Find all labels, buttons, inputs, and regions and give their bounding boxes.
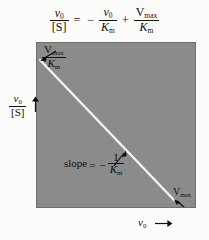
y-axis-numerator-sub: 0 bbox=[18, 98, 21, 105]
slope-label-equals: = bbox=[87, 159, 97, 171]
slope-label: slope=− 1 Km bbox=[64, 152, 124, 177]
eadie-hofstee-line bbox=[40, 60, 174, 200]
y-intercept-fraction: Vmax Km bbox=[42, 44, 66, 71]
y-axis-numerator: v0 bbox=[9, 93, 26, 107]
equation-equals-sign: = bbox=[72, 13, 83, 28]
x-intercept-label: Vmax bbox=[173, 186, 191, 198]
slope-label-denominator-sub: m bbox=[117, 169, 122, 176]
y-axis-denominator: [S] bbox=[9, 107, 26, 118]
up-arrow-icon bbox=[31, 96, 40, 112]
slope-label-fraction: 1 Km bbox=[108, 152, 125, 177]
x-axis-label-sub: 0 bbox=[143, 222, 146, 229]
equation-term1-denominator-base: K bbox=[101, 20, 109, 34]
equation-lhs-numerator: v0 bbox=[50, 7, 69, 22]
equation-term2-denominator-sub: m bbox=[148, 26, 154, 35]
y-intercept-numerator: Vmax bbox=[42, 44, 66, 58]
equation-term1-numerator: v0 bbox=[99, 6, 117, 21]
y-axis-label: v0 [S] bbox=[9, 93, 26, 118]
y-intercept-denominator-sub: m bbox=[55, 63, 60, 70]
x-axis-label: v0 bbox=[138, 216, 146, 229]
equation-lhs-denominator: [S] bbox=[50, 21, 69, 33]
equation-term1-denominator: Km bbox=[99, 21, 117, 35]
equation-term1-fraction: v0 Km bbox=[99, 6, 117, 34]
y-intercept-label: Vmax Km bbox=[42, 44, 66, 71]
equation-term2-fraction: Vmax Km bbox=[134, 6, 159, 34]
equation-eadie-hofstee: v0 [S] = − v0 Km + Vmax Km bbox=[0, 6, 209, 34]
y-intercept-denominator: Km bbox=[42, 58, 66, 71]
equation-term2-denominator: Km bbox=[134, 21, 159, 35]
y-intercept-denominator-base: K bbox=[48, 57, 55, 69]
y-intercept-numerator-base: V bbox=[44, 43, 52, 55]
equation-term1-numerator-sub: 0 bbox=[109, 11, 113, 20]
slope-label-denominator-base: K bbox=[110, 163, 117, 175]
equation-term1-sign: − bbox=[85, 13, 96, 28]
slope-label-text: slope bbox=[64, 157, 87, 169]
slope-label-sign: − bbox=[97, 159, 107, 171]
equation-plus-sign: + bbox=[120, 13, 131, 28]
eadie-hofstee-figure: v0 [S] = − v0 Km + Vmax Km bbox=[0, 0, 209, 240]
right-arrow-icon bbox=[155, 219, 173, 228]
equation-term2-numerator: Vmax bbox=[134, 6, 159, 21]
x-intercept-arrow-icon bbox=[174, 199, 185, 208]
x-intercept-label-sub: max bbox=[180, 191, 191, 198]
equation-lhs-fraction: v0 [S] bbox=[50, 7, 69, 34]
y-axis-fraction: v0 [S] bbox=[9, 93, 26, 118]
slope-label-denominator: Km bbox=[108, 164, 125, 177]
y-intercept-numerator-sub: max bbox=[52, 49, 64, 56]
equation-term2-denominator-base: K bbox=[140, 20, 148, 34]
equation-term1-denominator-sub: m bbox=[109, 26, 115, 35]
